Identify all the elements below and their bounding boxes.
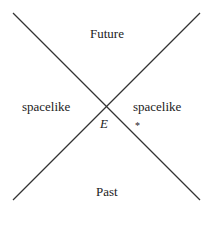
marker: * — [135, 120, 140, 131]
spacelike-left-label: spacelike — [22, 99, 70, 115]
future-label: Future — [90, 26, 124, 42]
event-label: E — [100, 116, 108, 132]
past-label: Past — [96, 184, 118, 200]
spacelike-right-label: spacelike — [133, 99, 181, 115]
